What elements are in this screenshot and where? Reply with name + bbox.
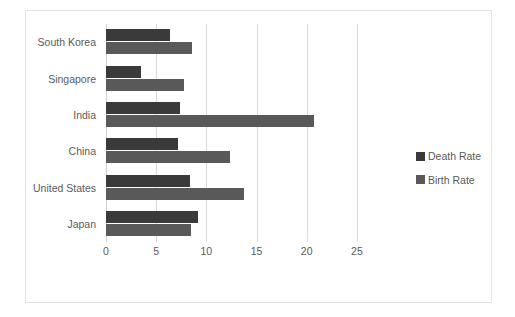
x-axis-value-labels: 0510152025	[106, 245, 386, 265]
y-axis-label: Singapore	[48, 66, 96, 92]
legend-entry[interactable]: Death Rate	[416, 151, 490, 162]
bar-group	[106, 211, 386, 237]
bar-group	[106, 138, 386, 164]
bar-group	[106, 29, 386, 55]
bar-birth-rate[interactable]	[106, 42, 192, 54]
x-axis-tick-label: 5	[153, 245, 159, 257]
x-axis-tick-label: 20	[301, 245, 313, 257]
legend-swatch-icon	[416, 175, 425, 184]
bar-death-rate[interactable]	[106, 66, 141, 78]
bar-death-rate[interactable]	[106, 29, 170, 41]
legend-entry[interactable]: Birth Rate	[416, 175, 490, 186]
y-axis-label: India	[73, 102, 96, 128]
x-axis-tick-label: 10	[201, 245, 213, 257]
y-axis-label: China	[69, 138, 96, 164]
bar-birth-rate[interactable]	[106, 224, 191, 236]
chart-frame: South KoreaSingaporeIndiaChinaUnited Sta…	[25, 10, 492, 303]
y-axis-label: South Korea	[38, 29, 96, 55]
bar-death-rate[interactable]	[106, 138, 178, 150]
legend-label: Death Rate	[428, 151, 481, 162]
x-axis-tick-label: 25	[351, 245, 363, 257]
bar-group	[106, 102, 386, 128]
bar-birth-rate[interactable]	[106, 188, 244, 200]
bar-death-rate[interactable]	[106, 175, 190, 187]
plot-area	[106, 24, 386, 242]
x-axis-tick-label: 0	[103, 245, 109, 257]
y-axis-label: United States	[33, 175, 96, 201]
bar-birth-rate[interactable]	[106, 79, 184, 91]
legend-label: Birth Rate	[428, 175, 475, 186]
y-axis-label: Japan	[67, 211, 96, 237]
x-axis-tick-label: 15	[251, 245, 263, 257]
chart-legend: Death RateBirth Rate	[416, 151, 490, 198]
bar-birth-rate[interactable]	[106, 151, 230, 163]
bar-death-rate[interactable]	[106, 102, 180, 114]
bar-rows	[106, 24, 386, 242]
bar-group	[106, 66, 386, 92]
bar-group	[106, 175, 386, 201]
bar-death-rate[interactable]	[106, 211, 198, 223]
y-axis-category-labels: South KoreaSingaporeIndiaChinaUnited Sta…	[26, 24, 102, 242]
bar-birth-rate[interactable]	[106, 115, 314, 127]
legend-swatch-icon	[416, 152, 425, 161]
